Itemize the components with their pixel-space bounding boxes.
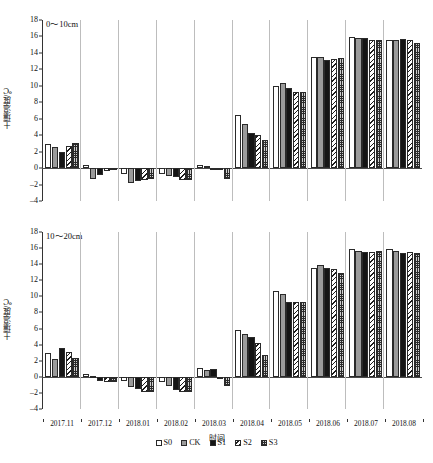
bar-s3	[338, 58, 344, 168]
bar-slot	[331, 232, 337, 409]
legend-item-s3[interactable]: S3	[261, 438, 278, 447]
bar-slot	[204, 20, 210, 201]
bar-s2	[255, 135, 261, 168]
bar-slot	[97, 232, 103, 409]
legend-item-s2[interactable]: S2	[235, 438, 252, 447]
bar-group-bars	[233, 20, 271, 201]
bar-s0	[159, 377, 165, 383]
bar-slot	[217, 20, 223, 201]
bar-s2	[293, 302, 299, 377]
y-tick-mark	[39, 312, 42, 313]
bar-s1	[135, 377, 141, 389]
bar-slot	[104, 20, 110, 201]
bar-s2	[104, 377, 110, 383]
bar-groups-top	[43, 20, 422, 201]
bar-s3	[376, 40, 382, 168]
bar-s3	[262, 140, 268, 168]
bar-slot	[179, 20, 185, 201]
bar-slot	[255, 232, 261, 409]
bar-slot	[45, 20, 51, 201]
bar-ck	[204, 166, 210, 168]
bar-slot	[159, 232, 165, 409]
bar-s2	[141, 168, 147, 180]
bar-slot	[173, 20, 179, 201]
bar-slot	[210, 20, 216, 201]
bar-slot	[338, 232, 344, 409]
bar-s3	[224, 377, 230, 386]
bar-s1	[173, 377, 179, 390]
bar-s0	[197, 368, 203, 377]
x-tick-mark	[43, 419, 44, 422]
chart-panel-10-20cm: 土壤温度/℃ 10～20cm 181614121086420–2–4 2017.…	[0, 218, 433, 423]
bar-slot	[197, 20, 203, 201]
bar-group	[308, 232, 346, 409]
y-tick-mark	[39, 20, 42, 21]
bar-slot	[83, 232, 89, 409]
bar-slot	[110, 20, 116, 201]
bar-ck	[128, 168, 134, 183]
bar-slot	[128, 232, 134, 409]
bar-slot	[369, 232, 375, 409]
chart-legend: S0CKS1S2S3	[0, 438, 433, 447]
bar-slot	[338, 20, 344, 201]
bar-s2	[217, 377, 223, 379]
bar-s1	[210, 168, 216, 170]
y-tick-mark	[39, 69, 42, 70]
bar-slot	[414, 232, 420, 409]
bar-slot	[83, 20, 89, 201]
bar-slot	[355, 20, 361, 201]
legend-item-s1[interactable]: S1	[210, 438, 227, 447]
bar-group	[81, 232, 119, 409]
x-tick-mark	[271, 419, 272, 422]
legend-label: CK	[189, 438, 200, 447]
bar-s3	[376, 251, 382, 377]
y-tick-mark	[39, 376, 42, 377]
bar-slot	[186, 20, 192, 201]
x-tick-mark	[385, 419, 386, 422]
bar-s3	[72, 143, 78, 168]
bar-slot	[273, 20, 279, 201]
bar-s2	[179, 168, 185, 180]
bar-s3	[186, 168, 192, 180]
bar-group	[157, 232, 195, 409]
y-tick-mark	[39, 296, 42, 297]
y-tick-mark	[39, 184, 42, 185]
bar-slot	[286, 232, 292, 409]
bar-ck	[166, 168, 172, 176]
bar-slot	[286, 20, 292, 201]
x-tick-label: 2017.12	[81, 419, 119, 431]
x-tick-mark	[347, 419, 348, 422]
bar-s1	[400, 253, 406, 377]
bar-slot	[262, 232, 268, 409]
bar-group-bars	[384, 232, 422, 409]
bar-s1	[210, 369, 216, 377]
x-tick-mark	[195, 419, 196, 422]
legend-item-ck[interactable]: CK	[181, 438, 200, 447]
bar-slot	[52, 20, 58, 201]
bar-s1	[286, 302, 292, 377]
bar-slot	[324, 232, 330, 409]
bar-slot	[300, 20, 306, 201]
x-tick-mark	[119, 419, 120, 422]
bar-group-bars	[195, 20, 233, 201]
bar-s2	[255, 343, 261, 377]
bar-s3	[186, 377, 192, 392]
bar-group-bars	[233, 232, 271, 409]
bar-s3	[300, 92, 306, 169]
bar-slot	[224, 20, 230, 201]
bar-slot	[135, 232, 141, 409]
bar-slot	[159, 20, 165, 201]
bar-s0	[235, 115, 241, 168]
y-tick-mark	[39, 392, 42, 393]
bar-slot	[376, 232, 382, 409]
bar-slot	[224, 232, 230, 409]
bar-group-bars	[384, 20, 422, 201]
bar-slot	[66, 20, 72, 201]
bar-slot	[300, 232, 306, 409]
bar-s1	[362, 38, 368, 168]
x-tick-label: 2017.11	[43, 419, 81, 431]
legend-swatch-black	[210, 440, 216, 446]
bar-group	[157, 20, 195, 201]
legend-item-s0[interactable]: S0	[156, 438, 173, 447]
bar-s0	[386, 40, 392, 168]
